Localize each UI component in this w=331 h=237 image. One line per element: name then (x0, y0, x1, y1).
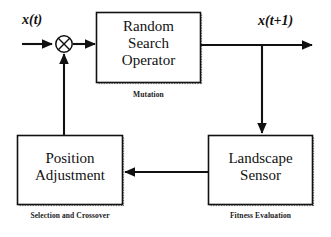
node-caption-selection-and-crossover: Selection and Crossover (12, 211, 128, 220)
diagram-vector-layer (0, 0, 331, 237)
signal-label-input: x(t) (22, 12, 42, 28)
node-caption-fitness-evaluation: Fitness Evaluation (208, 211, 313, 220)
node-landscape-sensor[interactable] (209, 136, 314, 207)
signal-label-output: x(t+1) (258, 13, 293, 29)
diagram-canvas: x(t) x(t+1) Random Search Operator Mutat… (0, 0, 331, 237)
node-caption-mutation: Mutation (96, 90, 201, 99)
node-random-search-operator[interactable] (97, 13, 202, 85)
node-position-adjustment[interactable] (18, 136, 124, 207)
node-crossover-junction[interactable] (56, 36, 72, 52)
